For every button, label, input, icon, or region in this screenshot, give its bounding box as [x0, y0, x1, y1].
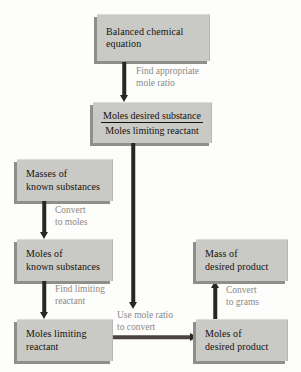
arrow-head-up-icon: [211, 281, 219, 288]
box-moles-of-desired-product: Moles of desired product: [196, 319, 288, 361]
box-masses-known-line2: known substances: [26, 181, 112, 194]
arrow-mole-ratio-to-convert: [127, 143, 139, 309]
label-find-appropriate-mole-ratio: Find appropriate mole ratio: [136, 66, 199, 89]
arrow-masses-to-moles: [38, 201, 50, 239]
box-moles-known-line1: Moles of: [26, 248, 112, 261]
box-moles-desired-line2: desired product: [205, 341, 287, 354]
arrow-shaft: [113, 335, 191, 339]
box-moles-limiting-line2: reactant: [26, 341, 112, 354]
label-convert-to-moles: Convert to moles: [55, 205, 87, 228]
label-convert-to-grams-line2: to grams: [226, 297, 259, 307]
box-masses-known-line1: Masses of: [26, 168, 112, 181]
arrow-head-down-icon: [120, 95, 128, 102]
box-moles-limiting-reactant: Moles limiting reactant: [17, 319, 113, 361]
label-use-mole-ratio-line2: to convert: [117, 322, 155, 332]
arrow-head-down-icon: [40, 312, 48, 319]
arrow-equation-to-mole-ratio: [118, 62, 130, 102]
label-find-mole-ratio-line1: Find appropriate: [136, 66, 199, 76]
label-convert-to-grams-line1: Convert: [226, 285, 257, 295]
label-use-mole-ratio-to-convert: Use mole ratio to convert: [117, 310, 173, 333]
arrow-limiting-to-desired-product: [113, 331, 197, 343]
flowchart-diagram: Balanced chemical equation Find appropri…: [0, 0, 301, 372]
box-balanced-equation-line2: equation: [106, 38, 209, 51]
label-convert-to-grams: Convert to grams: [226, 285, 259, 308]
label-find-limiting-line1: Find limiting: [55, 284, 105, 294]
arrow-head-down-icon: [40, 232, 48, 239]
arrow-head-down-icon: [129, 302, 137, 309]
arrow-shaft: [42, 281, 46, 312]
arrow-moles-to-limiting-reactant: [38, 281, 50, 319]
arrow-shaft: [213, 288, 217, 319]
box-moles-of-known-substances: Moles of known substances: [17, 239, 113, 281]
label-find-limiting-reactant: Find limiting reactant: [55, 284, 105, 307]
arrow-shaft: [122, 62, 126, 95]
box-moles-desired-line1: Moles of: [205, 328, 287, 341]
arrow-shaft: [131, 143, 135, 302]
box-mass-of-desired-product: Mass of desired product: [196, 239, 288, 281]
fraction-numerator: Moles desired substance: [101, 109, 203, 124]
label-find-mole-ratio-line2: mole ratio: [136, 78, 175, 88]
label-use-mole-ratio-line1: Use mole ratio: [117, 310, 173, 320]
box-mass-desired-line2: desired product: [205, 261, 287, 274]
arrow-moles-to-mass-desired-product: [209, 281, 221, 319]
box-mole-ratio-fraction: Moles desired substance Moles limiting r…: [93, 102, 212, 143]
box-moles-known-line2: known substances: [26, 261, 112, 274]
box-balanced-equation-line1: Balanced chemical: [106, 26, 209, 39]
arrow-shaft: [42, 201, 46, 232]
label-convert-to-moles-line2: to moles: [55, 217, 87, 227]
box-mass-desired-line1: Mass of: [205, 248, 287, 261]
label-convert-to-moles-line1: Convert: [55, 205, 86, 215]
box-moles-limiting-line1: Moles limiting: [26, 328, 112, 341]
box-masses-of-known-substances: Masses of known substances: [17, 159, 113, 201]
label-find-limiting-line2: reactant: [55, 296, 85, 306]
fraction-denominator: Moles limiting reactant: [103, 123, 200, 137]
box-balanced-chemical-equation: Balanced chemical equation: [97, 14, 210, 61]
